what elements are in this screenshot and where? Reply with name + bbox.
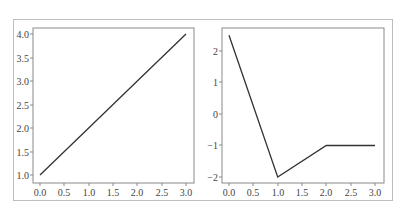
x-tick-label: 0.0: [223, 187, 236, 198]
y-tick-label: 3.0: [17, 76, 30, 87]
x-tick-label: 2.0: [320, 187, 333, 198]
x-tick-label: 2.0: [131, 187, 144, 198]
left-y-tick-labels: 4.0 3.5 3.0 2.5 2.0 1.5 1.0: [17, 29, 30, 181]
left-x-tick-labels: 0.0 0.5 1.0 1.5 2.0 2.5 3.0: [34, 187, 193, 198]
x-tick-label: 0.5: [247, 187, 260, 198]
x-tick-label: 2.5: [156, 187, 169, 198]
x-tick-label: 3.0: [369, 187, 382, 198]
y-tick-label: 0: [213, 109, 218, 120]
y-tick-label: −1: [207, 140, 218, 151]
right-plot-area: [222, 28, 384, 183]
left-subplot: 4.0 3.5 3.0 2.5 2.0 1.5 1.0 0.0 0.5 1.0 …: [17, 28, 195, 198]
y-tick-label: 2: [213, 46, 218, 57]
y-tick-label: 2.0: [17, 123, 30, 134]
y-tick-label: 2.5: [17, 100, 30, 111]
y-tick-label: 1.0: [17, 170, 30, 181]
y-tick-label: 3.5: [17, 53, 30, 64]
x-tick-label: 1.5: [296, 187, 309, 198]
y-tick-label: 1.5: [17, 147, 30, 158]
y-tick-label: −2: [207, 172, 218, 183]
x-tick-label: 0.0: [34, 187, 47, 198]
x-tick-label: 1.0: [83, 187, 96, 198]
right-x-tick-labels: 0.0 0.5 1.0 1.5 2.0 2.5 3.0: [223, 187, 382, 198]
right-subplot: 2 1 0 −1 −2 0.0 0.5 1.0 1.5 2.0 2.5 3.0: [207, 28, 384, 198]
y-tick-label: 4.0: [17, 29, 30, 40]
right-y-tick-labels: 2 1 0 −1 −2: [207, 46, 218, 183]
y-tick-label: 1: [213, 77, 218, 88]
x-tick-label: 2.5: [345, 187, 358, 198]
left-plot-area: [33, 28, 194, 183]
x-tick-label: 3.0: [180, 187, 193, 198]
x-tick-label: 0.5: [58, 187, 71, 198]
figure-canvas: 4.0 3.5 3.0 2.5 2.0 1.5 1.0 0.0 0.5 1.0 …: [0, 0, 402, 217]
x-tick-label: 1.5: [107, 187, 120, 198]
x-tick-label: 1.0: [272, 187, 285, 198]
